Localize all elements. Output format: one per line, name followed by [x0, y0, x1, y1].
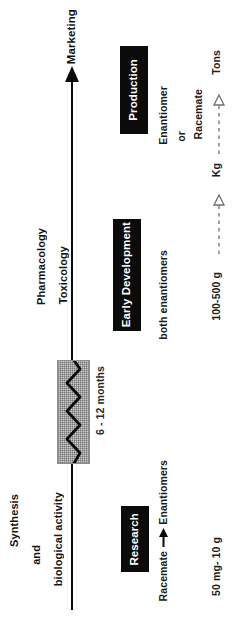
axis-end-label-marketing: Marketing [66, 9, 78, 64]
timeline-axis-upper-segment [71, 80, 73, 362]
label-and: and [31, 545, 42, 565]
diagram-canvas: Marketing 6 - 12 months Synthesis and bi… [0, 0, 252, 642]
timeline-break-box [57, 360, 90, 464]
label-biological-activity: biological activity [53, 492, 64, 586]
label-pharmacology: Pharmacology [36, 228, 47, 305]
break-duration-label: 6 - 12 months [95, 366, 106, 435]
stage-box-research[interactable]: Research [121, 506, 149, 572]
label-scale-kg: Kg [211, 163, 222, 177]
stage-box-early-development[interactable]: Early Development [113, 219, 141, 331]
label-enantiomers-research: Enantiomers [158, 460, 169, 525]
label-or: or [176, 131, 187, 142]
stage-box-production[interactable]: Production [120, 46, 148, 134]
label-racemate-research: Racemate [158, 551, 169, 601]
timeline-axis-lower-segment [71, 460, 73, 610]
zigzag-break-icon [58, 361, 89, 463]
scaleup-dashed-arrow-tons-icon [212, 93, 226, 155]
label-synthesis: Synthesis [9, 494, 20, 547]
label-scale-research: 50 mg- 10 g [211, 537, 222, 596]
stage-label-research: Research [129, 513, 141, 566]
label-racemate-production: Racemate [193, 89, 204, 139]
conversion-arrow-icon [157, 528, 170, 548]
label-both-enantiomers: both enantiomers [158, 250, 169, 340]
label-scale-development: 100-500 g [211, 272, 222, 321]
scaleup-dashed-arrow-kg-icon [212, 193, 226, 255]
label-scale-tons: Tons [211, 50, 222, 75]
label-toxicology: Toxicology [58, 246, 69, 304]
label-enantiomer-production: Enantiomer [158, 86, 169, 145]
stage-label-early-development: Early Development [121, 222, 133, 327]
stage-label-production: Production [128, 59, 140, 121]
